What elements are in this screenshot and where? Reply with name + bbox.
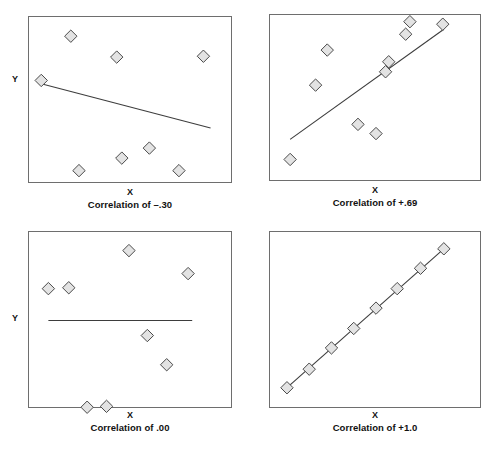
data-point-marker (437, 18, 449, 30)
panel-3-plot-frame (28, 231, 232, 408)
data-point-marker (73, 164, 85, 176)
panel-1-x-axis-label: X (110, 188, 150, 197)
panel-1-plot-frame (28, 16, 232, 183)
panel-4-plot-canvas (270, 232, 482, 409)
data-point-marker (116, 152, 128, 164)
data-point-marker (123, 244, 135, 256)
data-point-marker (399, 28, 411, 40)
data-point-marker (182, 267, 194, 279)
panel-3-plot-canvas (29, 232, 233, 409)
panel-correlation-zero: Y X Correlation of .00 (0, 223, 248, 459)
data-point-marker (161, 359, 173, 371)
data-point-marker (42, 282, 54, 294)
panel-3-y-axis-label: Y (8, 314, 22, 323)
data-point-marker (284, 153, 296, 165)
data-point-marker (391, 282, 403, 294)
data-point-marker (63, 282, 75, 294)
data-point-marker (321, 44, 333, 56)
panel-3-caption: Correlation of .00 (30, 423, 230, 433)
panel-4-plot-frame (269, 231, 481, 408)
panel-1-plot-canvas (29, 17, 233, 184)
panel-3-x-axis-label: X (110, 411, 150, 420)
data-point-marker (370, 127, 382, 139)
data-point-marker (173, 164, 185, 176)
panel-correlation-positive-10: Y X Correlation of +1.0 (248, 223, 496, 459)
panel-2-x-axis-label: X (355, 186, 395, 195)
data-point-marker (81, 401, 93, 413)
data-point-marker (111, 51, 123, 63)
panel-4-caption: Correlation of +1.0 (275, 423, 475, 433)
data-point-marker (404, 15, 416, 27)
panel-correlation-negative-30: Y X Correlation of –.30 (0, 0, 248, 215)
data-point-marker (197, 50, 209, 62)
panel-4-x-axis-label: X (355, 411, 395, 420)
trend-line (41, 84, 210, 128)
panel-2-plot-frame (269, 14, 481, 181)
panel-2-caption: Correlation of +.69 (275, 198, 475, 208)
data-point-marker (352, 118, 364, 130)
data-point-marker (309, 79, 321, 91)
correlation-scatterplot-figure: Y X Correlation of –.30 Y X Correlation … (0, 0, 496, 459)
panel-correlation-positive-69: Y X Correlation of +.69 (248, 0, 496, 215)
panel-2-plot-canvas (270, 15, 482, 182)
panel-1-caption: Correlation of –.30 (30, 200, 230, 210)
data-point-marker (65, 30, 77, 42)
data-point-marker (141, 329, 153, 341)
panel-1-y-axis-label: Y (8, 75, 22, 84)
data-point-marker (143, 142, 155, 154)
